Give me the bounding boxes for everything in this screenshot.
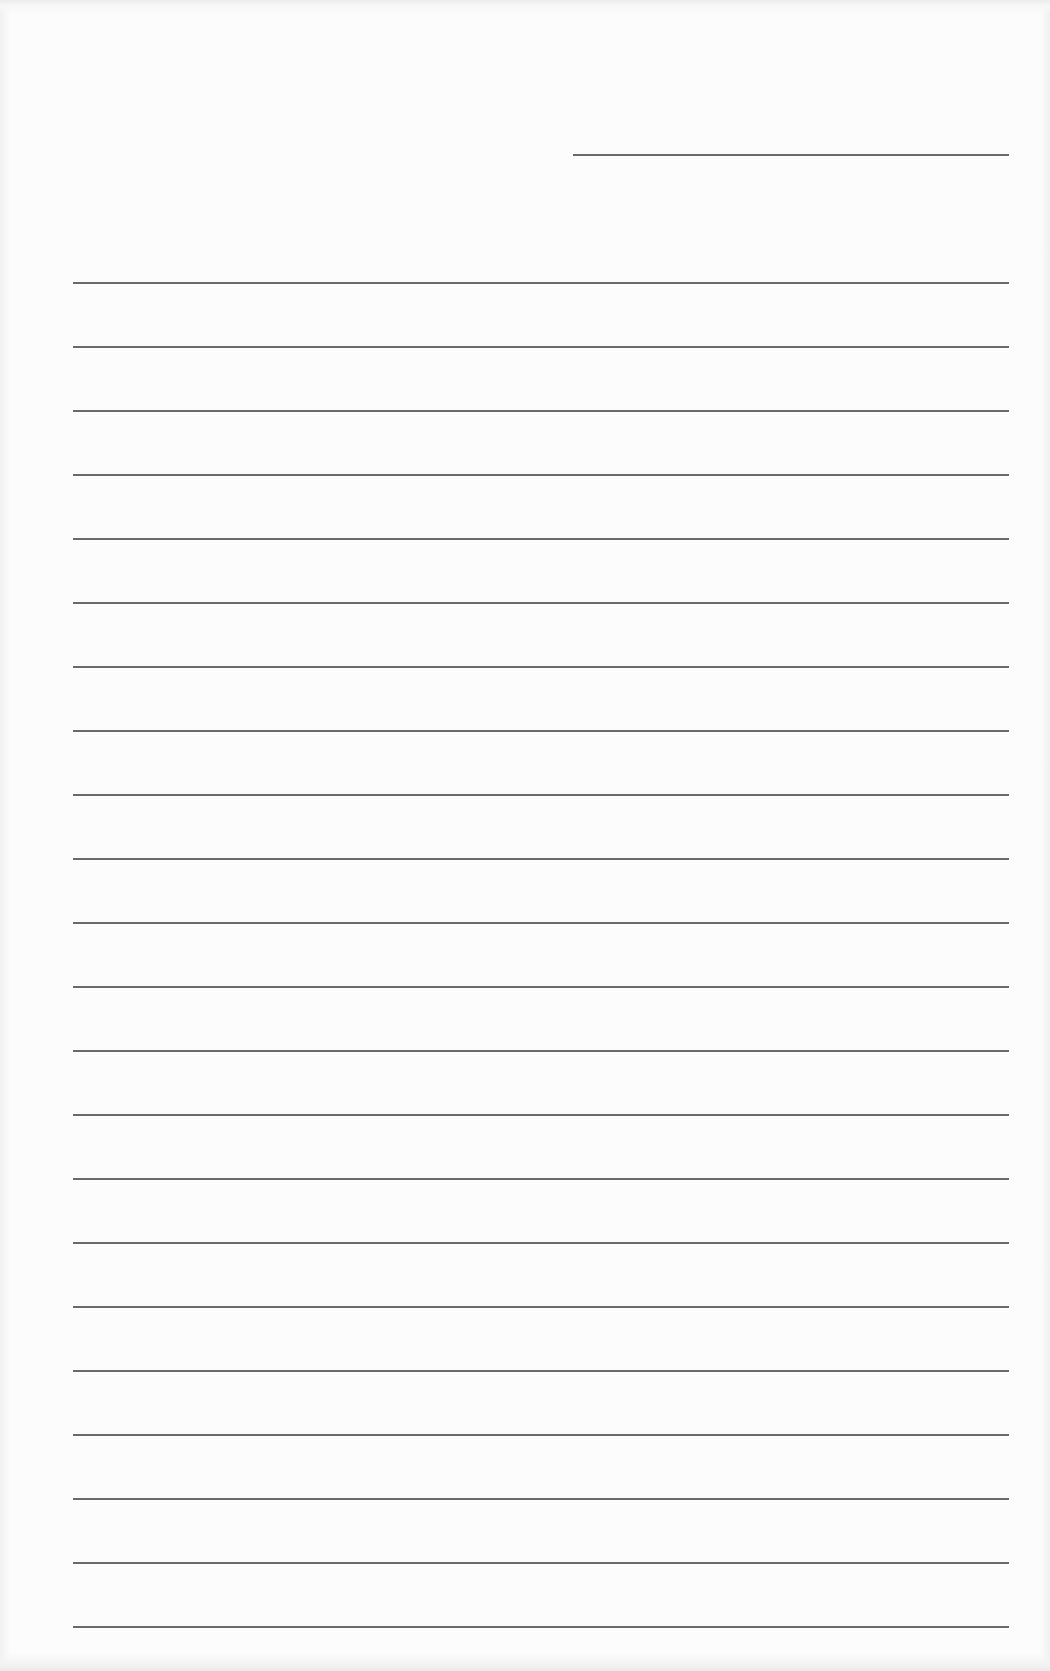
ruled-line (73, 730, 1009, 732)
ruled-line (73, 602, 1009, 604)
lined-paper (0, 0, 1050, 1671)
ruled-line (73, 1626, 1009, 1628)
ruled-line (73, 1370, 1009, 1372)
header-write-line (573, 154, 1009, 156)
ruled-line (73, 1434, 1009, 1436)
ruled-line (73, 474, 1009, 476)
ruled-line (73, 666, 1009, 668)
ruled-line (73, 1178, 1009, 1180)
ruled-line (73, 410, 1009, 412)
ruled-line (73, 1498, 1009, 1500)
ruled-line (73, 346, 1009, 348)
ruled-line (73, 1114, 1009, 1116)
ruled-line (73, 1306, 1009, 1308)
ruled-line (73, 1050, 1009, 1052)
ruled-line (73, 282, 1009, 284)
ruled-line (73, 538, 1009, 540)
ruled-line (73, 858, 1009, 860)
ruled-line (73, 922, 1009, 924)
ruled-line (73, 794, 1009, 796)
ruled-line (73, 986, 1009, 988)
ruled-line (73, 1242, 1009, 1244)
ruled-line (73, 1562, 1009, 1564)
